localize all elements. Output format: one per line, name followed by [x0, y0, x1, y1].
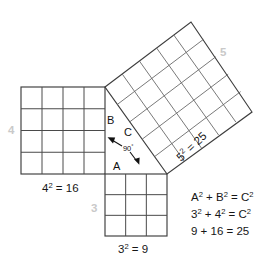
- eq-general-seg-1-base: +: [203, 191, 216, 203]
- right-angle-label: 90°: [123, 143, 133, 153]
- eq-sub-seg-4-base: C: [239, 208, 247, 220]
- triangle-vertex-label-a: A: [113, 160, 121, 172]
- square-hypotenuse-c-side-label: 5: [220, 46, 227, 58]
- square-leg-a-outline: [105, 174, 167, 236]
- triangle-vertex-label-c: C: [124, 126, 132, 138]
- square-leg-b: 4 42 = 16: [8, 87, 105, 194]
- pythagorean-theorem-diagram: 4 42 = 16 3 32 = 9: [0, 0, 268, 262]
- angle-arrow-to-leg-b-icon: [108, 137, 123, 146]
- equation-line-substituted: 32 + 42 = C2: [191, 207, 251, 221]
- angle-arrow-to-leg-a-icon: [130, 152, 140, 165]
- square-leg-b-area-label: 42 = 16: [42, 181, 79, 195]
- diagram-canvas: 4 42 = 16 3 32 = 9: [0, 0, 268, 262]
- square-leg-a-area-label: 32 = 9: [118, 242, 148, 256]
- eq-sub-seg-1-base: +: [202, 208, 215, 220]
- equation-line-general: A2 + B2 = C2: [191, 190, 254, 204]
- eq-general-seg-4-sup: 2: [249, 190, 253, 199]
- equation-block: A2 + B2 = C2 32 + 42 = C2 9 + 16 = 25: [191, 190, 254, 238]
- square-leg-a-area-equals: = 9: [129, 243, 149, 255]
- triangle-vertex-label-b: B: [107, 114, 114, 126]
- equation-line-evaluated: 9 + 16 = 25: [191, 225, 249, 237]
- square-leg-b-side-label: 4: [8, 124, 15, 136]
- square-leg-a-side-label: 3: [91, 202, 97, 214]
- eq-sub-seg-3-base: =: [225, 208, 238, 220]
- right-angle-degree-symbol: °: [131, 143, 133, 149]
- eq-general-seg-3-base: =: [228, 191, 241, 203]
- square-leg-a: 3 32 = 9: [91, 174, 167, 255]
- eq-general-seg-4-base: C: [241, 191, 249, 203]
- right-angle-value: 90: [123, 144, 131, 153]
- eq-sub-seg-4-sup: 2: [247, 207, 251, 216]
- square-leg-b-area-equals: = 16: [53, 182, 79, 194]
